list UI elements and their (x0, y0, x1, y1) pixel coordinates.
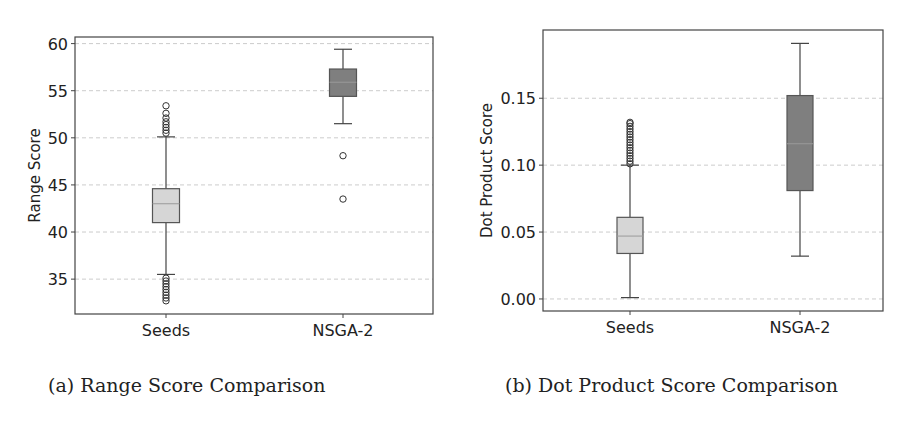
x-tick-label: Seeds (606, 318, 654, 337)
caption-dot-product-score: (b) Dot Product Score Comparison (505, 374, 838, 396)
y-tick-label: 0.10 (500, 156, 536, 175)
y-tick-label: 45 (48, 176, 68, 195)
chart-panel-range-score: 354045505560Range ScoreSeedsNSGA-2 (26, 35, 433, 340)
box-plot-figure: 354045505560Range ScoreSeedsNSGA-20.000.… (0, 0, 905, 422)
outlier-point (163, 103, 169, 109)
box-iqr (153, 189, 180, 223)
box-iqr (787, 96, 813, 191)
chart-panel-dot-product-score: 0.000.050.100.15Dot Product ScoreSeedsNS… (478, 30, 883, 337)
y-tick-label: 35 (48, 270, 68, 289)
y-tick-label: 0.15 (500, 89, 536, 108)
y-tick-label: 0.05 (500, 223, 536, 242)
y-tick-label: 50 (48, 129, 68, 148)
outlier-point (163, 110, 169, 116)
box-nsga-2 (787, 43, 813, 256)
figure: 354045505560Range ScoreSeedsNSGA-20.000.… (0, 0, 905, 422)
box-iqr (617, 217, 643, 253)
y-tick-label: 40 (48, 223, 68, 242)
x-tick-label: NSGA-2 (312, 321, 373, 340)
y-tick-label: 0.00 (500, 290, 536, 309)
y-axis-label: Dot Product Score (478, 103, 496, 238)
box-seeds (617, 119, 643, 297)
caption-range-score: (a) Range Score Comparison (48, 374, 325, 396)
y-tick-label: 60 (48, 35, 68, 54)
outlier-point (340, 196, 346, 202)
outlier-point (340, 153, 346, 159)
box-nsga-2 (330, 49, 357, 202)
plot-frame (75, 37, 433, 314)
plot-frame (543, 30, 883, 311)
y-tick-label: 55 (48, 82, 68, 101)
x-tick-label: Seeds (142, 321, 190, 340)
x-tick-label: NSGA-2 (769, 318, 830, 337)
y-axis-label: Range Score (26, 128, 44, 222)
box-seeds (153, 103, 180, 304)
